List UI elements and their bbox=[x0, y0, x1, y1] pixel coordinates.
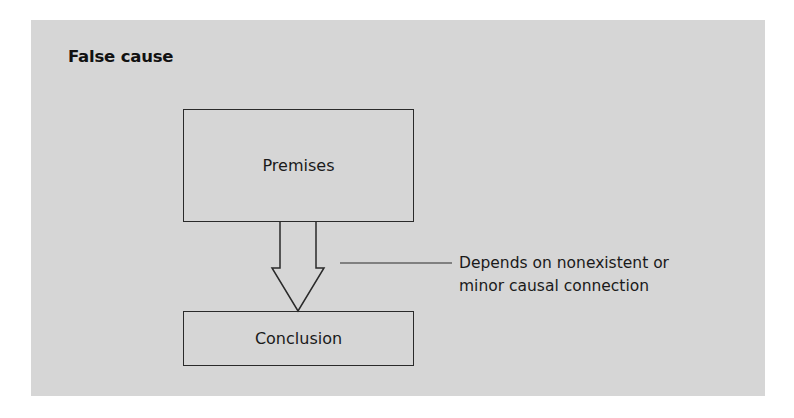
conclusion-label: Conclusion bbox=[255, 329, 342, 348]
conclusion-box: Conclusion bbox=[183, 311, 414, 366]
callout-line-2: minor causal connection bbox=[459, 275, 669, 298]
callout-annotation: Depends on nonexistent or minor causal c… bbox=[459, 252, 669, 298]
down-arrow-icon bbox=[272, 222, 324, 311]
callout-line-1: Depends on nonexistent or bbox=[459, 252, 669, 275]
